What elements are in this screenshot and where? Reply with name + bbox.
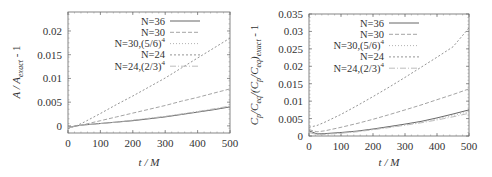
x-tick-label: 200 [125, 137, 142, 149]
legend-label: N=30,(5/6)4 [114, 36, 165, 50]
legend-label: N=36 [141, 16, 165, 27]
series-line [309, 89, 469, 132]
series-line [309, 112, 469, 135]
legend-label: N=30,(5/6)4 [333, 38, 384, 52]
right-x-axis-label: t / M [379, 156, 401, 168]
series-line [68, 106, 230, 128]
series-line [309, 113, 469, 134]
x-tick-label: 0 [65, 137, 71, 149]
y-tick-label: 0.005 [278, 113, 303, 125]
y-tick-label: 0 [57, 120, 63, 132]
left-x-axis-label: t / M [139, 156, 161, 168]
y-tick-label: 0.02 [284, 60, 303, 72]
right-plot-panel: 010020030040050000.0050.010.0150.020.025… [278, 8, 478, 152]
plot-frame [309, 14, 469, 136]
x-tick-label: 300 [397, 140, 414, 152]
x-tick-label: 400 [429, 140, 446, 152]
x-tick-label: 300 [157, 137, 174, 149]
x-tick-label: 400 [189, 137, 206, 149]
right-y-axis-label: Cp/Ceq/(Cp/Ceq)exact - 1 [248, 25, 263, 126]
y-tick-label: 0.01 [43, 72, 62, 84]
y-tick-label: 0.005 [37, 96, 62, 108]
legend-label: N=36 [360, 18, 384, 29]
y-tick-label: 0.01 [284, 95, 303, 107]
y-tick-label: 0.02 [43, 25, 62, 37]
x-tick-label: 100 [92, 137, 109, 149]
legend: N=36N=30N=30,(5/6)4N=24N=24,(2/3)4 [333, 18, 419, 75]
y-tick-label: 0.03 [284, 25, 304, 37]
y-tick-label: 0.025 [278, 43, 303, 55]
x-tick-label: 0 [306, 140, 312, 152]
legend-label: N=24,(2/3)4 [114, 59, 165, 73]
series-line [309, 110, 469, 134]
y-tick-label: 0 [298, 130, 304, 142]
series-line [68, 89, 230, 128]
left-plot-panel: 010020030040050000.0050.010.0150.02N=36N… [37, 12, 239, 149]
y-tick-label: 0.015 [37, 49, 62, 61]
x-tick-label: 200 [365, 140, 382, 152]
y-tick-label: 0.035 [278, 8, 303, 20]
legend-label: N=24,(2/3)4 [333, 61, 384, 75]
figure-canvas: 010020030040050000.0050.010.0150.02N=36N… [0, 0, 492, 177]
x-tick-label: 500 [222, 137, 239, 149]
legend: N=36N=30N=30,(5/6)4N=24N=24,(2/3)4 [114, 16, 200, 73]
y-tick-label: 0.015 [278, 78, 303, 90]
left-y-axis-label: A / Aexact - 1 [10, 45, 25, 99]
x-tick-label: 500 [461, 140, 478, 152]
x-tick-label: 100 [333, 140, 350, 152]
